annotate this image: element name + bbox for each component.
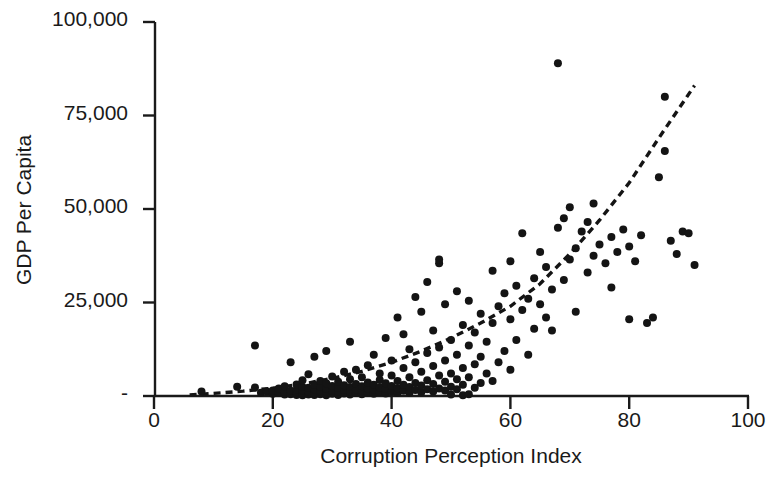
data-point: [566, 203, 574, 211]
data-point: [322, 347, 330, 355]
data-point: [453, 375, 461, 383]
data-point: [471, 328, 479, 336]
data-point: [506, 366, 514, 374]
data-point: [572, 308, 580, 316]
data-point: [631, 257, 639, 265]
data-point: [518, 306, 526, 314]
data-point: [435, 371, 443, 379]
data-point: [667, 237, 675, 245]
data-point: [548, 327, 556, 335]
data-point: [233, 383, 241, 391]
data-point: [578, 227, 586, 235]
data-point: [435, 343, 443, 351]
data-point: [483, 338, 491, 346]
data-point: [661, 147, 669, 155]
data-point: [465, 297, 473, 305]
data-point: [477, 310, 485, 318]
data-point: [405, 345, 413, 353]
data-point: [607, 233, 615, 241]
data-point: [459, 381, 467, 389]
data-point: [536, 248, 544, 256]
data-point: [429, 362, 437, 370]
data-point: [637, 231, 645, 239]
data-point: [388, 356, 396, 364]
data-point: [566, 255, 574, 263]
data-point: [590, 199, 598, 207]
data-point: [394, 313, 402, 321]
data-point: [304, 370, 312, 378]
data-point: [601, 259, 609, 267]
data-point: [447, 370, 455, 378]
data-point: [512, 282, 520, 290]
data-point: [506, 257, 514, 265]
data-point: [346, 338, 354, 346]
data-point: [405, 373, 413, 381]
data-point: [560, 214, 568, 222]
data-point: [471, 360, 479, 368]
data-point: [287, 358, 295, 366]
data-point: [518, 229, 526, 237]
scatter-chart: GDP Per Capita Corruption Perception Ind…: [0, 0, 771, 479]
data-point: [661, 93, 669, 101]
data-point: [554, 59, 562, 67]
data-point: [500, 347, 508, 355]
data-point: [310, 353, 318, 361]
data-point: [352, 366, 360, 374]
data-point: [370, 351, 378, 359]
data-point: [691, 261, 699, 269]
data-point: [465, 373, 473, 381]
data-point: [655, 173, 663, 181]
data-point: [572, 244, 580, 252]
data-point: [500, 289, 508, 297]
data-point: [477, 353, 485, 361]
data-point: [483, 370, 491, 378]
data-point: [417, 368, 425, 376]
data-point: [613, 248, 621, 256]
data-point: [560, 276, 568, 284]
data-point: [489, 319, 497, 327]
data-point: [453, 287, 461, 295]
data-point: [399, 364, 407, 372]
data-point: [453, 351, 461, 359]
data-point: [524, 351, 532, 359]
data-point: [596, 241, 604, 249]
data-point: [411, 293, 419, 301]
data-point: [364, 361, 372, 369]
data-point: [399, 330, 407, 338]
data-point: [459, 321, 467, 329]
data-point: [548, 285, 556, 293]
data-point: [441, 300, 449, 308]
data-point: [423, 349, 431, 357]
data-point: [441, 356, 449, 364]
data-point: [643, 319, 651, 327]
y-axis-ticks: [143, 22, 155, 396]
data-point: [489, 377, 497, 385]
data-point: [542, 313, 550, 321]
data-point: [530, 274, 538, 282]
data-point: [459, 364, 467, 372]
data-point: [685, 229, 693, 237]
data-point: [411, 358, 419, 366]
data-point: [388, 371, 396, 379]
data-point: [625, 242, 633, 250]
data-point: [495, 302, 503, 310]
data-point: [649, 313, 657, 321]
data-point: [198, 388, 206, 396]
data-point: [584, 269, 592, 277]
data-point: [590, 252, 598, 260]
data-point: [554, 224, 562, 232]
data-point: [584, 218, 592, 226]
data-point: [506, 315, 514, 323]
data-point: [619, 226, 627, 234]
data-point: [465, 342, 473, 350]
data-point: [447, 336, 455, 344]
data-point: [536, 300, 544, 308]
data-point: [625, 315, 633, 323]
data-point: [489, 267, 497, 275]
data-point: [477, 379, 485, 387]
data-point: [423, 278, 431, 286]
data-point: [530, 325, 538, 333]
data-point: [429, 327, 437, 335]
data-point: [542, 263, 550, 271]
data-point: [376, 370, 384, 378]
